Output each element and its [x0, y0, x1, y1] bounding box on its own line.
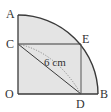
quarter-circle-sector: [18, 15, 98, 94]
label-e: E: [82, 32, 89, 46]
measurement-label: 6 cm: [44, 56, 66, 68]
label-d: D: [76, 97, 85, 111]
label-c: C: [6, 37, 14, 51]
label-b: B: [100, 87, 108, 101]
label-o: O: [5, 87, 14, 101]
quarter-circle-diagram: A C O E D B 6 cm: [0, 0, 111, 112]
label-a: A: [6, 7, 15, 21]
